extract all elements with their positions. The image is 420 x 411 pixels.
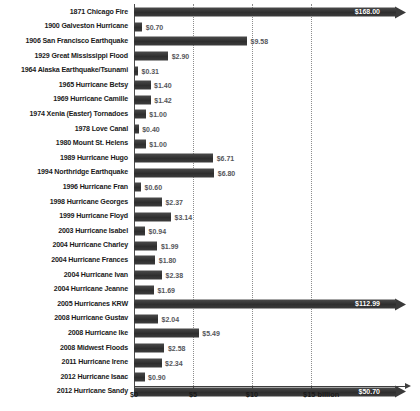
bar-row: 2011 Hurricane Irene$2.34: [0, 355, 420, 370]
bar-container: $112.99: [134, 300, 406, 309]
category-label: 2003 Hurricane Isabel: [0, 228, 131, 235]
bar: [134, 125, 139, 134]
bar: [134, 66, 138, 75]
category-label: 2004 Hurricane Jeanne: [0, 286, 131, 293]
bar-container: $5.49: [134, 329, 220, 338]
bar-container: $9.58: [134, 37, 268, 46]
x-tick: [252, 386, 253, 389]
bar-container: $0.70: [134, 22, 163, 31]
bar-value-label: $1.80: [159, 257, 177, 264]
bar: [134, 285, 154, 294]
bar-value-label: $2.90: [172, 53, 190, 60]
x-tick: [311, 386, 312, 389]
bar: [134, 314, 158, 323]
bar-value-label: $2.37: [165, 199, 183, 206]
bar: [134, 37, 247, 46]
bar: [134, 22, 142, 31]
category-label: 2004 Hurricane Charley: [0, 242, 131, 249]
bar-value-label: $2.38: [166, 272, 184, 279]
bar-row: 1980 Mount St. Helens$1.00: [0, 136, 420, 151]
bar-container: $1.80: [134, 256, 176, 265]
bar-container: $2.58: [134, 344, 185, 353]
bar-overflow-arrow-icon: [395, 6, 406, 18]
x-axis-line: [134, 386, 406, 387]
bar-container: $0.40: [134, 125, 160, 134]
x-axis-arrow-icon: [405, 383, 411, 389]
bar-row: 1999 Hurricane Floyd$3.14: [0, 209, 420, 224]
category-label: 2005 Hurricanes KRW: [0, 301, 131, 308]
bar-row: 2012 Hurricane Isaac$0.90: [0, 370, 420, 385]
bar: [134, 358, 162, 367]
bar-row: 2004 Hurricane Jeanne$1.69: [0, 282, 420, 297]
bar-container: $0.60: [134, 183, 162, 192]
bar-value-label: $1.00: [149, 140, 167, 147]
category-label: 1974 Xenia (Easter) Tornadoes: [0, 111, 131, 118]
bar-container: $1.00: [134, 110, 167, 119]
bar: [134, 95, 151, 104]
bar-row: 2008 Hurricane Ike$5.49: [0, 326, 420, 341]
category-label: 1900 Galveston Hurricane: [0, 23, 131, 30]
x-tick: [134, 386, 135, 389]
bar-chart: 1871 Chicago Fire$168.001900 Galveston H…: [0, 0, 420, 411]
category-label: 2004 Hurricane Ivan: [0, 272, 131, 279]
bar: [134, 373, 145, 382]
bar: [134, 110, 146, 119]
bar: [134, 227, 145, 236]
bar-container: $1.69: [134, 285, 175, 294]
bar: [134, 198, 162, 207]
category-label: 2012 Hurricane Sandy: [0, 388, 131, 395]
category-label: 1980 Mount St. Helens: [0, 140, 131, 147]
bar-container: $2.04: [134, 314, 179, 323]
bar-row: 1871 Chicago Fire$168.00: [0, 5, 420, 20]
bar-container: $3.14: [134, 212, 192, 221]
x-tick-label: $5: [189, 391, 197, 398]
category-label: 1964 Alaska Earthquake/Tsunami: [0, 67, 131, 74]
bar-container: $0.31: [134, 66, 159, 75]
bar: [134, 344, 164, 353]
bar-row: 2003 Hurricane Isabel$0.94: [0, 224, 420, 239]
bar-container: $2.38: [134, 271, 183, 280]
bar-container: $1.00: [134, 139, 167, 148]
category-label: 2008 Hurricane Gustav: [0, 315, 131, 322]
bar-row: 1900 Galveston Hurricane$0.70: [0, 20, 420, 35]
bar-value-label: $112.99: [355, 300, 380, 307]
bar: [134, 183, 141, 192]
bar-container: $2.34: [134, 358, 183, 367]
bar-value-label: $5.49: [202, 330, 220, 337]
bar: [134, 52, 168, 61]
bar-container: $1.99: [134, 241, 179, 250]
bar-value-label: $6.80: [218, 169, 236, 176]
bar-value-label: $1.99: [161, 242, 179, 249]
bar-value-label: $168.00: [355, 8, 380, 15]
bar-value-label: $9.58: [251, 38, 269, 45]
bar-row: 2004 Hurricane Ivan$2.38: [0, 268, 420, 283]
category-label: 2004 Hurricane Frances: [0, 257, 131, 264]
category-label: 1965 Hurricane Betsy: [0, 82, 131, 89]
category-label: 2008 Midwest Floods: [0, 345, 131, 352]
x-tick-label: $0: [130, 391, 138, 398]
bar-row: 2008 Hurricane Gustav$2.04: [0, 312, 420, 327]
category-label: 2012 Hurricane Isaac: [0, 374, 131, 381]
bar-container: $6.71: [134, 154, 234, 163]
category-label: 2008 Hurricane Ike: [0, 330, 131, 337]
bar-container: $0.90: [134, 373, 166, 382]
bar-value-label: $6.71: [217, 155, 235, 162]
bar: [134, 139, 146, 148]
bar-container: $1.42: [134, 95, 172, 104]
bar: $168.00: [134, 8, 396, 17]
bar-container: $2.90: [134, 52, 189, 61]
x-tick-label: $15 billion: [303, 391, 339, 398]
bar-value-label: $0.60: [145, 184, 163, 191]
category-label: 1906 San Francisco Earthquake: [0, 38, 131, 45]
category-label: 1999 Hurricane Floyd: [0, 213, 131, 220]
bar-value-label: $2.58: [168, 345, 186, 352]
bar-value-label: $1.00: [149, 111, 167, 118]
bar-value-label: $0.94: [149, 228, 167, 235]
category-label: 1996 Hurricane Fran: [0, 184, 131, 191]
bar: [134, 271, 162, 280]
bar-overflow-arrow-icon: [395, 298, 406, 310]
bar: $50.70: [134, 387, 396, 396]
bar-container: $2.37: [134, 198, 183, 207]
category-label: 1969 Hurricane Camille: [0, 96, 131, 103]
bar-row: 1964 Alaska Earthquake/Tsunami$0.31: [0, 63, 420, 78]
